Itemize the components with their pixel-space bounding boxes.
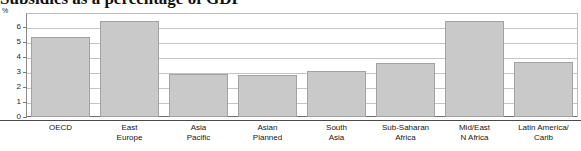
category-label-6: Mid/EastN Africa <box>440 123 509 143</box>
category-label-3: AsianPlanned <box>233 123 302 143</box>
category-label-line: Asia <box>164 123 233 133</box>
chart-title-clipped: Subsidies as a percentage of GDP <box>0 0 581 9</box>
bar-5 <box>376 63 435 117</box>
category-label-5: Sub-SaharanAfrica <box>371 123 440 143</box>
bar-3 <box>238 75 297 117</box>
bar-4 <box>307 71 366 117</box>
bar-0 <box>31 37 90 117</box>
y-tick-label-2: 2 <box>2 83 21 91</box>
category-label-line: South <box>302 123 371 133</box>
y-tick-label-4: 4 <box>2 53 21 61</box>
category-label-line: Africa <box>371 133 440 143</box>
category-separator-rule <box>0 120 581 121</box>
bar-1 <box>100 21 159 117</box>
category-label-line: Carib <box>509 133 578 143</box>
category-label-2: AsiaPacific <box>164 123 233 143</box>
bar-2 <box>169 74 228 117</box>
category-label-0: OECD <box>26 123 95 133</box>
category-label-line: Mid/East <box>440 123 509 133</box>
bar-chart-figure: Subsidies as a percentage of GDP % 01234… <box>0 0 581 151</box>
category-label-4: SouthAsia <box>302 123 371 143</box>
chart-title: Subsidies as a percentage of GDP <box>0 0 242 9</box>
y-tick-mark-0 <box>23 117 27 118</box>
y-tick-label-1: 1 <box>2 98 21 106</box>
y-tick-label-5: 5 <box>2 38 21 46</box>
category-label-line: Europe <box>95 133 164 143</box>
category-label-line: Sub-Saharan <box>371 123 440 133</box>
category-label-line: Latin America/ <box>509 123 578 133</box>
category-label-line: N Africa <box>440 133 509 143</box>
y-axis-unit-label: % <box>2 7 8 15</box>
x-axis-category-labels: OECDEastEuropeAsiaPacificAsianPlannedSou… <box>26 123 578 151</box>
category-label-line: OECD <box>26 123 95 133</box>
bar-series <box>26 13 578 117</box>
category-label-line: East <box>95 123 164 133</box>
y-tick-label-3: 3 <box>2 68 21 76</box>
category-label-line: Asia <box>302 133 371 143</box>
bar-6 <box>445 21 504 117</box>
y-tick-label-6: 6 <box>2 23 21 31</box>
bar-7 <box>514 62 573 117</box>
category-label-1: EastEurope <box>95 123 164 143</box>
category-label-7: Latin America/Carib <box>509 123 578 143</box>
category-label-line: Planned <box>233 133 302 143</box>
category-label-line: Pacific <box>164 133 233 143</box>
category-label-line: Asian <box>233 123 302 133</box>
